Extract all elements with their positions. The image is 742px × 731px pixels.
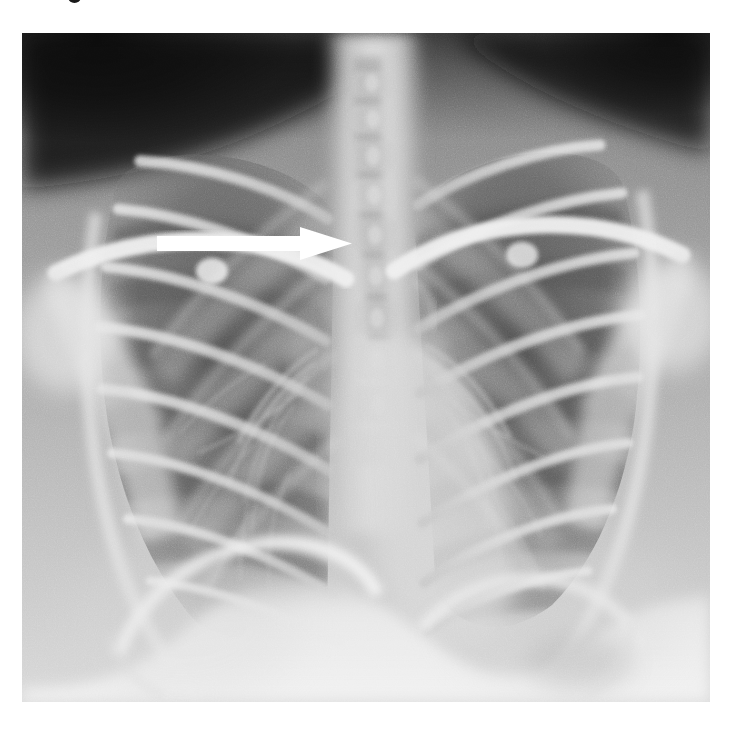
cropped-caption-glyph	[68, 0, 81, 3]
radiograph-image	[22, 33, 710, 702]
right-acromioclavicular-joint	[196, 258, 228, 284]
left-acromioclavicular-joint	[506, 242, 538, 268]
chest-radiograph-figure	[22, 33, 710, 702]
